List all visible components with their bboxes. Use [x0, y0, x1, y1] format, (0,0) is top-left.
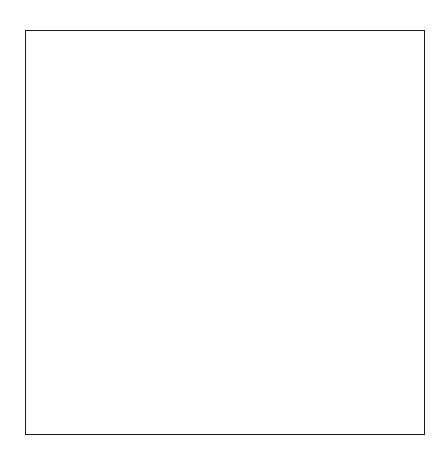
figure-container: [0, 0, 446, 460]
plot-canvas: [0, 0, 446, 460]
